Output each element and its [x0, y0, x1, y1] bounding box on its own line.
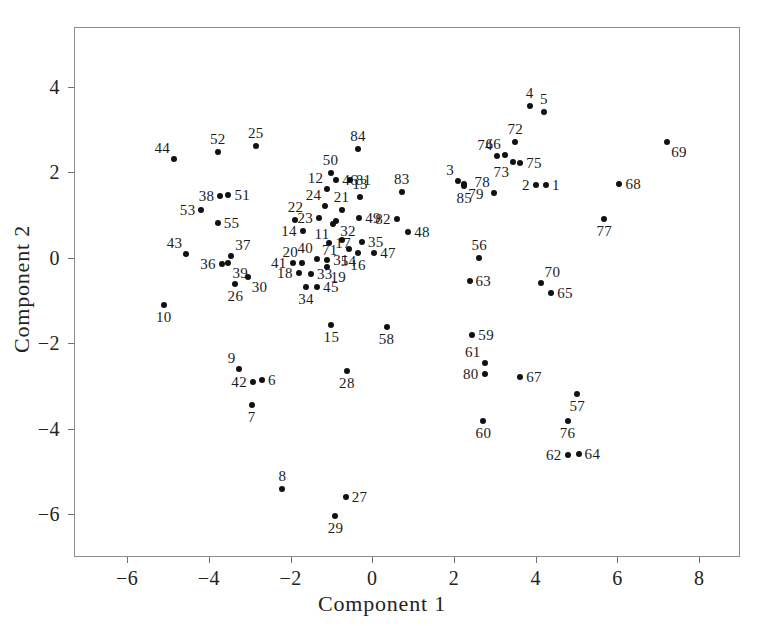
- y-tick-label: −4: [8, 419, 60, 439]
- data-point-marker: [300, 228, 306, 234]
- data-point-marker: [228, 253, 234, 259]
- data-point-label: 64: [585, 447, 601, 462]
- y-axis-title: Component 2: [9, 169, 35, 409]
- data-point-label: 72: [507, 122, 523, 137]
- data-point-label: 63: [476, 274, 492, 289]
- data-point-marker: [533, 182, 539, 188]
- data-point-marker: [314, 256, 320, 262]
- data-point-marker: [183, 251, 189, 257]
- data-point-marker: [322, 203, 328, 209]
- data-point-label: 36: [200, 257, 216, 272]
- data-point-label: 83: [394, 172, 410, 187]
- data-point-marker: [215, 149, 221, 155]
- data-point-label: 37: [235, 238, 251, 253]
- x-tick-label: −6: [97, 566, 157, 590]
- data-point-marker: [467, 278, 473, 284]
- y-tick-mark: [68, 172, 74, 173]
- data-point-label: 5: [540, 92, 548, 107]
- data-point-label: 80: [463, 367, 479, 382]
- data-point-marker: [565, 452, 571, 458]
- data-point-marker: [232, 281, 238, 287]
- data-point-marker: [347, 177, 353, 183]
- data-point-marker: [217, 193, 223, 199]
- x-tick-label: 0: [342, 566, 402, 590]
- data-point-label: 1: [552, 178, 560, 193]
- data-point-marker: [296, 270, 302, 276]
- data-point-label: 14: [281, 224, 297, 239]
- data-point-label: 76: [560, 426, 576, 441]
- data-point-label: 42: [231, 375, 247, 390]
- data-point-label: 23: [298, 211, 314, 226]
- x-axis-title: Component 1: [0, 591, 764, 617]
- x-tick-label: −4: [179, 566, 239, 590]
- data-point-marker: [491, 190, 497, 196]
- data-point-label: 25: [248, 126, 264, 141]
- data-point-marker: [469, 332, 475, 338]
- data-point-marker: [249, 402, 255, 408]
- data-point-marker: [565, 418, 571, 424]
- data-point-label: 10: [156, 310, 172, 325]
- data-point-marker: [541, 109, 547, 115]
- data-point-label: 38: [199, 189, 215, 204]
- data-point-marker: [225, 260, 231, 266]
- x-tick-label: 8: [669, 566, 729, 590]
- data-point-marker: [339, 207, 345, 213]
- data-point-label: 82: [375, 212, 391, 227]
- data-point-label: 40: [298, 241, 314, 256]
- data-point-label: 57: [570, 399, 586, 414]
- data-point-label: 29: [328, 521, 344, 536]
- data-point-label: 48: [414, 225, 430, 240]
- data-point-label: 28: [339, 376, 355, 391]
- data-point-label: 81: [356, 173, 372, 188]
- data-point-marker: [482, 360, 488, 366]
- data-point-label: 27: [352, 490, 368, 505]
- data-point-label: 4: [526, 86, 534, 101]
- data-point-label: 43: [167, 236, 183, 251]
- plot-data-area: 1234567891011121314151617181920212223242…: [74, 27, 740, 557]
- y-tick-mark: [68, 87, 74, 88]
- data-point-label: 84: [350, 129, 366, 144]
- data-point-marker: [384, 324, 390, 330]
- data-point-marker: [333, 218, 339, 224]
- data-point-label: 53: [180, 203, 196, 218]
- data-point-marker: [250, 379, 256, 385]
- data-point-marker: [394, 216, 400, 222]
- x-tick-label: 2: [424, 566, 484, 590]
- data-point-label: 15: [324, 330, 340, 345]
- data-point-marker: [161, 302, 167, 308]
- data-point-label: 67: [526, 370, 542, 385]
- y-tick-mark: [68, 429, 74, 430]
- data-point-label: 21: [334, 190, 350, 205]
- data-point-marker: [601, 216, 607, 222]
- data-point-marker: [308, 271, 314, 277]
- data-point-label: 62: [546, 448, 562, 463]
- data-point-marker: [480, 418, 486, 424]
- scatter-plot-figure: 1234567891011121314151617181920212223242…: [0, 0, 764, 626]
- data-point-marker: [303, 284, 309, 290]
- data-point-label: 7: [248, 410, 256, 425]
- x-tick-mark: [291, 557, 292, 563]
- data-point-marker: [455, 178, 461, 184]
- data-point-label: 34: [298, 292, 314, 307]
- data-point-label: 51: [234, 188, 250, 203]
- data-point-label: 56: [472, 238, 488, 253]
- data-point-marker: [324, 186, 330, 192]
- data-point-marker: [215, 220, 221, 226]
- data-point-label: 54: [341, 254, 357, 269]
- data-point-marker: [616, 181, 622, 187]
- x-tick-mark: [372, 557, 373, 563]
- data-point-marker: [236, 366, 242, 372]
- data-point-label: 30: [252, 280, 268, 295]
- data-point-marker: [316, 215, 322, 221]
- data-point-label: 85: [456, 191, 472, 206]
- data-point-marker: [482, 371, 488, 377]
- data-point-label: 47: [380, 246, 396, 261]
- data-point-marker: [290, 260, 296, 266]
- x-tick-mark: [209, 557, 210, 563]
- data-point-marker: [517, 160, 523, 166]
- data-point-marker: [512, 139, 518, 145]
- data-point-label: 6: [268, 373, 276, 388]
- data-point-marker: [356, 215, 362, 221]
- x-tick-label: −2: [261, 566, 321, 590]
- y-tick-mark: [68, 343, 74, 344]
